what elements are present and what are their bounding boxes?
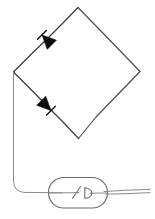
circuit-canvas [0, 0, 155, 219]
edge-top-right [78, 8, 140, 72]
edge-bottom-right [79, 72, 141, 139]
right-lead-wire-lower [106, 193, 150, 195]
diamond-bridge [14, 8, 141, 139]
circuit-diagram [0, 0, 155, 219]
diode-upper-left-triangle [38, 31, 57, 50]
left-lead-wire [14, 73, 63, 193]
right-lead-wire-upper [104, 189, 150, 191]
